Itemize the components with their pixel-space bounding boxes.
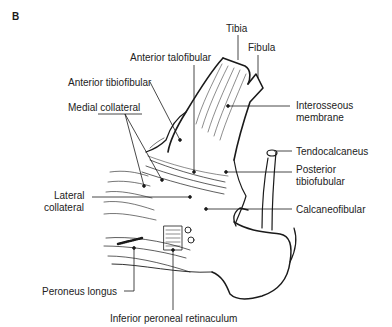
- label-calcaneofibular: Calcaneofibular: [296, 204, 366, 215]
- label-anterior-talofibular: Anterior talofibular: [130, 52, 211, 63]
- fibula-bone: [234, 74, 263, 160]
- label-lateral-collateral-2: collateral: [44, 202, 84, 213]
- label-lateral-collateral-1: Lateral: [54, 190, 85, 201]
- label-tibia: Tibia: [226, 23, 247, 34]
- label-interosseous-membrane-2: membrane: [296, 112, 344, 123]
- label-posterior-tibiofibular-2: tibiofubular: [296, 176, 345, 187]
- label-interosseous-membrane-1: Interosseous: [296, 100, 353, 111]
- label-tendocalcaneus: Tendocalcaneus: [296, 146, 368, 157]
- peroneus-longus: [118, 238, 142, 244]
- tendocalcaneus: [262, 158, 268, 228]
- label-fibula: Fibula: [248, 42, 275, 53]
- label-anterior-tibiofibular: Anterior tibiofibular: [68, 77, 151, 88]
- calcaneus: [212, 222, 291, 299]
- label-peroneus-longus: Peroneus longus: [42, 286, 117, 297]
- label-inferior-peroneal-retinaculum: Inferior peroneal retinaculum: [110, 313, 237, 324]
- tibia-bone: [168, 58, 223, 152]
- label-medial-collateral: Medial collateral: [68, 102, 140, 113]
- label-posterior-tibiofibular-1: Posterior: [296, 164, 336, 175]
